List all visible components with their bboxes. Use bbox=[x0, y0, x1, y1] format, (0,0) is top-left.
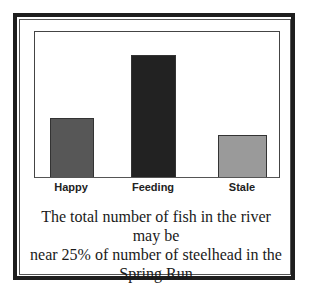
label-stale: Stale bbox=[202, 181, 282, 193]
bar-stale bbox=[218, 135, 267, 177]
label-feeding: Feeding bbox=[113, 181, 193, 193]
caption-line-3: Spring Run bbox=[28, 264, 284, 283]
bar-happy bbox=[50, 118, 94, 177]
label-happy: Happy bbox=[31, 181, 111, 193]
chart-caption: The total number of fish in the river ma… bbox=[28, 207, 284, 283]
caption-line-2: near 25% of number of steelhead in the bbox=[28, 245, 284, 264]
chart-plot-area bbox=[34, 31, 280, 178]
bar-feeding bbox=[131, 55, 176, 177]
caption-line-1: The total number of fish in the river ma… bbox=[28, 207, 284, 245]
